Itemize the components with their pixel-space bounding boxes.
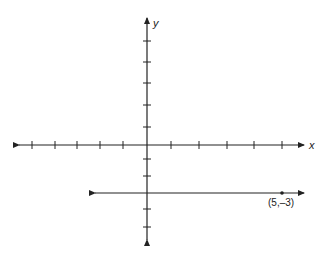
point-5-minus-3 bbox=[280, 191, 284, 195]
x-axis-label: x bbox=[308, 139, 315, 151]
y-axis-label: y bbox=[152, 17, 160, 29]
coordinate-plane-diagram: x y (5,–3) bbox=[0, 0, 330, 257]
coordinate-plane-svg: x y (5,–3) bbox=[0, 0, 330, 257]
point-label: (5,–3) bbox=[268, 197, 294, 208]
